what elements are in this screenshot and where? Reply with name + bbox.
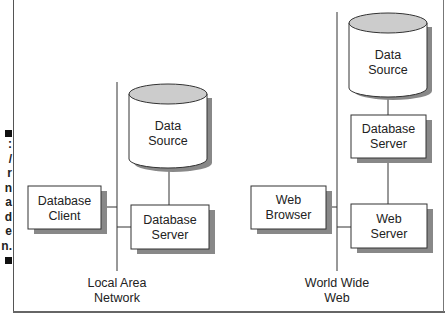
- www-database-server-label: DatabaseServer: [351, 122, 426, 152]
- lan-network-label: Local AreaNetwork: [67, 276, 167, 306]
- left-data-source-label: DataSource: [129, 119, 207, 149]
- www-network-label: World WideWeb: [287, 276, 387, 306]
- database-client-label: DatabaseClient: [28, 194, 101, 224]
- web-browser-label: WebBrowser: [251, 193, 326, 223]
- web-server-label: WebServer: [351, 212, 427, 242]
- right-data-source-label: DataSource: [349, 48, 427, 78]
- lan-database-server-label: DatabaseServer: [131, 213, 209, 243]
